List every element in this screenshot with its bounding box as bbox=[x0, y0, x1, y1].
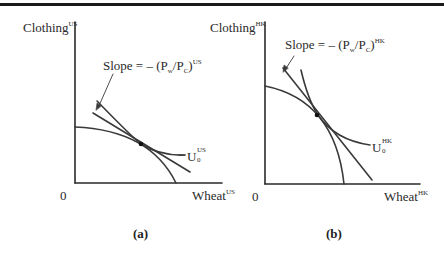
panel-b-x-axis-label: WheatHK bbox=[384, 190, 428, 203]
panel-b-slope-sup: HK bbox=[375, 37, 385, 45]
panel-b-y-axis-sup: HK bbox=[256, 20, 266, 28]
panel-a-x-axis-text: Wheat bbox=[192, 188, 226, 203]
panel-b-y-axis-label: ClothingHK bbox=[210, 21, 266, 34]
panel-a-curve-sub: 0 bbox=[197, 157, 201, 164]
panel-a-origin-label: 0 bbox=[60, 189, 67, 202]
panel-b-curve-label: U HK 0 bbox=[372, 141, 381, 154]
panel-a-slope-prefix: Slope = – (P bbox=[103, 58, 168, 73]
panel-b-curve-u: U bbox=[372, 140, 381, 155]
panel-a-slope-mid: /P bbox=[173, 58, 184, 73]
panel-a-curve-sup: US bbox=[197, 147, 206, 154]
panel-b-origin-label: 0 bbox=[252, 190, 259, 203]
panel-a-slope-label: Slope = – (Pw/PC)US bbox=[103, 59, 202, 75]
panel-b-equilibrium-dot bbox=[315, 113, 320, 118]
panel-a-indifference-curve bbox=[97, 101, 185, 155]
panel-a-y-axis-sup: US bbox=[69, 20, 78, 28]
panel-a-slope-sup: US bbox=[193, 58, 202, 66]
panel-a-curve-label: U US 0 bbox=[187, 150, 196, 163]
panel-a-curve-u: U bbox=[187, 149, 196, 164]
panel-a-y-axis-label: ClothingUS bbox=[23, 21, 77, 34]
panel-b-curve-sup: HK bbox=[382, 138, 392, 145]
panel-b-curve-sub: 0 bbox=[382, 148, 386, 155]
panel-a-equilibrium-dot bbox=[139, 142, 144, 147]
panel-a-slope-pointer bbox=[98, 74, 113, 108]
panel-b-x-axis-text: Wheat bbox=[384, 189, 418, 204]
panel-b-caption: (b) bbox=[326, 226, 342, 242]
panel-a-x-axis-label: WheatUS bbox=[192, 189, 235, 202]
panel-a-x-axis-sup: US bbox=[226, 188, 235, 196]
panel-b-slope-mid: /P bbox=[355, 37, 366, 52]
panel-b-x-axis-sup: HK bbox=[418, 189, 428, 197]
panel-b-y-axis-text: Clothing bbox=[210, 20, 256, 35]
panel-a-y-axis-text: Clothing bbox=[23, 20, 69, 35]
panel-a-caption: (a) bbox=[133, 226, 148, 242]
panel-b-slope-label: Slope = – (Pw/PC)HK bbox=[285, 38, 385, 54]
panel-b-price-line bbox=[283, 68, 372, 180]
panel-b-ppf-curve bbox=[265, 86, 344, 184]
panel-b-slope-prefix: Slope = – (P bbox=[285, 37, 350, 52]
